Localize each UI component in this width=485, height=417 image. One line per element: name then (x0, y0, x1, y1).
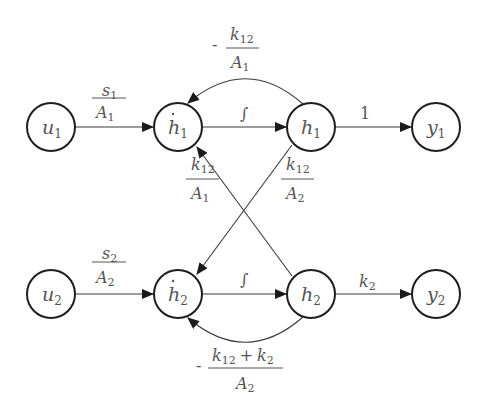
svg-text:k12: k12 (230, 25, 254, 46)
node-h1-main: h (301, 116, 313, 138)
label-den: A (189, 184, 203, 203)
label-integral-2: ∫ (240, 270, 248, 289)
label-num: s (102, 244, 110, 263)
derivative-dot (172, 113, 174, 115)
node-h1dot-sub: 1 (180, 127, 188, 141)
node-y1-sub: 1 (438, 127, 446, 141)
svg-text:A2: A2 (94, 268, 115, 289)
label-num-b: k (257, 346, 267, 365)
svg-text:A2: A2 (234, 374, 255, 395)
node-y2-sub: 2 (438, 294, 446, 308)
label-plus: + (240, 346, 253, 365)
label-num: k (286, 155, 296, 174)
node-h1dot-main: h (168, 116, 180, 138)
node-h2dot: h2 (154, 270, 202, 318)
label-den: A (94, 103, 108, 122)
label-num-sub: 12 (296, 163, 310, 176)
node-h2dot-main: h (168, 283, 180, 305)
signal-flow-diagram: u1 h1 h1 y1 u2 h2 h2 y2 s1 A1 ∫ 1 (0, 0, 485, 417)
node-h1: h1 (287, 103, 335, 151)
label-den-sub: 1 (203, 192, 210, 205)
label-num-a: k (212, 346, 222, 365)
derivative-dot (172, 280, 174, 282)
svg-text:k12+k2: k12+k2 (212, 346, 274, 367)
label-den-sub: 1 (108, 111, 115, 124)
label-den: A (94, 268, 108, 287)
node-u2: u2 (27, 270, 75, 318)
node-h2: h2 (287, 270, 335, 318)
label-num: s (102, 81, 110, 100)
label-den-sub: 2 (248, 382, 255, 395)
label-k12-over-A2-cross: k12 A2 (281, 155, 314, 205)
label-num: k (230, 25, 240, 44)
label-den-sub: 1 (243, 61, 250, 74)
label-den: A (234, 374, 248, 393)
label-num-sub: 2 (110, 252, 117, 265)
label-den: A (284, 184, 298, 203)
label-num-sub: 12 (240, 33, 254, 46)
label-num-sub: 12 (201, 163, 215, 176)
label-neg-k12-plus-k2-over-A2: - k12+k2 A2 (196, 346, 283, 395)
node-u2-main: u (42, 283, 54, 305)
node-h1-sub: 1 (313, 127, 321, 141)
label-s1-over-A1: s1 A1 (92, 81, 126, 124)
label-integral-1: ∫ (240, 104, 248, 123)
node-u1-main: u (42, 116, 54, 138)
svg-text:A1: A1 (229, 53, 250, 74)
svg-text:A2: A2 (284, 184, 305, 205)
svg-text:A1: A1 (189, 184, 210, 205)
node-h2-sub: 2 (313, 294, 321, 308)
label-k12-over-A1-cross: k12 A1 (186, 155, 219, 205)
node-y1-main: y (426, 116, 438, 138)
svg-text:A1: A1 (94, 103, 115, 124)
svg-text:k12: k12 (286, 155, 310, 176)
node-h1dot: h1 (154, 103, 202, 151)
label-s2-over-A2: s2 A2 (92, 244, 126, 289)
node-y1: y1 (412, 103, 460, 151)
label-num-sub: 1 (110, 89, 117, 102)
edge-h1-h1dot-feedback (188, 79, 303, 104)
node-y2-main: y (426, 283, 438, 305)
node-u1: u1 (27, 103, 75, 151)
label-sign: - (196, 356, 201, 375)
label-k-sub: 2 (369, 280, 376, 293)
label-num-a-sub: 12 (222, 354, 236, 367)
node-y2: y2 (412, 270, 460, 318)
label-neg-k12-over-A1: - k12 A1 (212, 25, 259, 74)
label-k2: k2 (359, 272, 376, 293)
label-k: k (359, 272, 369, 291)
label-num: k (191, 155, 201, 174)
svg-text:k12: k12 (191, 155, 215, 176)
node-h2dot-sub: 2 (180, 294, 188, 308)
node-u1-sub: 1 (54, 127, 62, 141)
node-u2-sub: 2 (54, 294, 62, 308)
label-num-b-sub: 2 (267, 354, 274, 367)
label-gain-one: 1 (360, 104, 370, 123)
edge-h2-h2dot-feedback (188, 317, 303, 342)
label-den-sub: 2 (298, 192, 305, 205)
node-h2-main: h (301, 283, 313, 305)
svg-text:s1: s1 (102, 81, 117, 102)
label-den-sub: 2 (108, 276, 115, 289)
label-sign: - (212, 35, 217, 54)
label-den: A (229, 53, 243, 72)
